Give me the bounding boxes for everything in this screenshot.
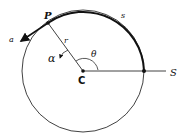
point-p [46,21,50,25]
label-theta: θ [91,49,97,59]
label-s: s [121,11,125,20]
point-arc-end [142,69,146,73]
circular-motion-diagram: P s r θ α a C S [0,0,184,134]
alpha-arrow [60,50,68,58]
label-alpha: α [48,52,56,65]
label-s-point: S [170,67,177,78]
label-r: r [64,36,69,45]
label-c: C [78,75,85,86]
point-c [81,69,85,73]
label-p: P [43,10,52,21]
theta-arc [76,58,98,70]
arc-s [48,12,144,71]
acceleration-arrow [21,23,48,41]
label-a: a [9,35,14,44]
